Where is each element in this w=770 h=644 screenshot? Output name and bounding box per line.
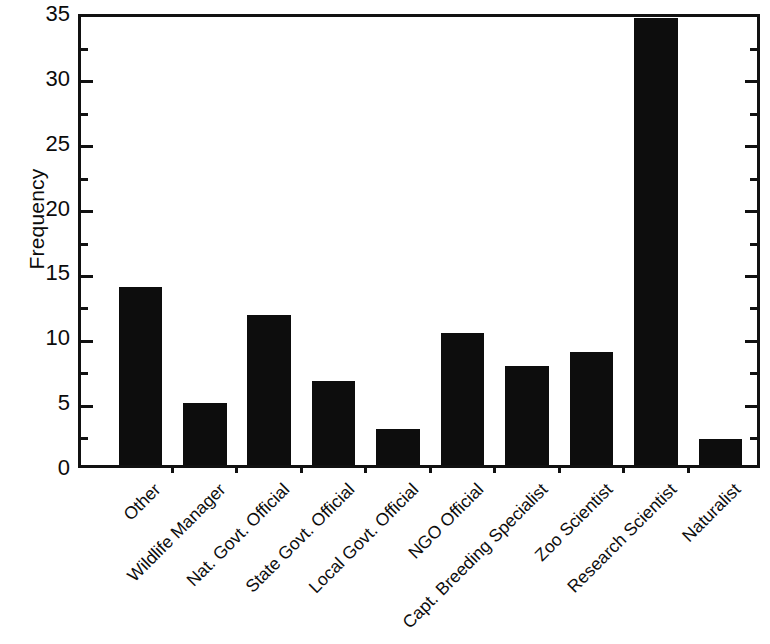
- bar: [634, 18, 678, 466]
- y-tick-label: 35: [18, 3, 70, 25]
- bars-layer: [81, 17, 757, 465]
- axis-tick: [81, 340, 93, 343]
- axis-tick: [745, 275, 757, 278]
- axis-tick: [750, 307, 757, 310]
- y-tick-label: 5: [18, 392, 70, 414]
- axis-tick: [750, 437, 757, 440]
- y-axis-tick-labels: 05101520253035: [8, 0, 70, 482]
- axis-tick: [745, 405, 757, 408]
- y-tick-label: 15: [18, 262, 70, 284]
- bar: [376, 429, 420, 465]
- axis-tick: [81, 80, 93, 83]
- y-tick-label: 10: [18, 327, 70, 349]
- axis-tick: [81, 113, 88, 116]
- y-tick-label: 25: [18, 133, 70, 155]
- bar: [441, 333, 485, 465]
- x-tick-label: Local Govt. Official: [306, 480, 422, 596]
- x-tick-label: Naturalist: [679, 480, 744, 545]
- x-tick-label: State Govt. Official: [242, 480, 358, 596]
- y-tick-label: 0: [18, 457, 70, 479]
- axis-tick: [750, 113, 757, 116]
- x-tick-label: Research Scientist: [564, 480, 680, 596]
- axis-tick: [81, 210, 93, 213]
- bar: [183, 403, 227, 465]
- axis-tick: [745, 80, 757, 83]
- bar: [570, 352, 614, 465]
- x-tick-label: Other: [120, 480, 164, 524]
- y-tick-label: 30: [18, 68, 70, 90]
- axis-tick: [81, 48, 88, 51]
- axis-tick: [81, 275, 93, 278]
- bar: [312, 381, 356, 465]
- axis-tick: [750, 178, 757, 181]
- axis-tick: [750, 48, 757, 51]
- axis-tick: [81, 437, 88, 440]
- axis-tick: [81, 405, 93, 408]
- bar: [119, 287, 163, 465]
- axis-tick: [745, 145, 757, 148]
- bar: [247, 315, 291, 465]
- bar: [505, 366, 549, 465]
- plot-area: [78, 14, 760, 468]
- axis-tick: [745, 340, 757, 343]
- axis-tick: [81, 178, 88, 181]
- axis-tick: [81, 307, 88, 310]
- y-tick-label: 20: [18, 198, 70, 220]
- axis-tick: [81, 372, 88, 375]
- axis-tick: [750, 372, 757, 375]
- x-axis-tick-labels: OtherWildlife ManagerNat. Govt. Official…: [78, 468, 760, 644]
- axis-tick: [81, 145, 93, 148]
- axis-tick: [81, 243, 88, 246]
- bar: [699, 439, 743, 465]
- axis-tick: [745, 210, 757, 213]
- axis-tick: [750, 243, 757, 246]
- bar-chart-figure: Frequency 05101520253035 OtherWildlife M…: [0, 0, 770, 644]
